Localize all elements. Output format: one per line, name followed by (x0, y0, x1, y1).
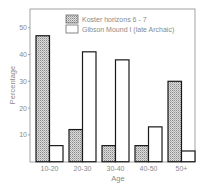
bar-gibson-20-30 (83, 52, 97, 162)
x-tick-label: 10-20 (41, 165, 59, 172)
y-tick-label: 10 (19, 131, 27, 138)
legend-label: Gibson Mound I (late Archaic) (82, 26, 174, 34)
x-tick-label: 30-40 (107, 165, 125, 172)
y-axis: 1020304050 (19, 24, 30, 138)
bar-koster-50+ (168, 81, 182, 161)
legend-swatch-koster (66, 15, 78, 23)
bar-gibson-40-50 (149, 127, 163, 162)
y-tick-label: 50 (19, 24, 27, 31)
y-tick-label: 20 (19, 105, 27, 112)
bar-koster-30-40 (102, 146, 116, 162)
x-tick-label: 40-50 (140, 165, 158, 172)
y-axis-title: Percentage (8, 66, 17, 104)
legend-swatch-gibson (66, 25, 78, 33)
bar-gibson-10-20 (50, 146, 64, 162)
bar-chart: 1020304050 10-2020-3030-4040-5050+ Koste… (0, 0, 206, 188)
y-tick-label: 40 (19, 51, 27, 58)
bar-gibson-30-40 (116, 60, 130, 162)
bar-koster-20-30 (69, 130, 83, 162)
x-axis: 10-2020-3030-4040-5050+ (41, 165, 188, 172)
bars (36, 36, 195, 162)
bar-koster-40-50 (135, 146, 149, 162)
bar-gibson-50+ (182, 151, 196, 162)
legend-label: Koster horizons 6 - 7 (82, 16, 147, 23)
y-tick-label: 30 (19, 78, 27, 85)
x-axis-title: Age (111, 174, 124, 183)
x-tick-label: 20-30 (74, 165, 92, 172)
bar-koster-10-20 (36, 36, 50, 162)
x-tick-label: 50+ (176, 165, 188, 172)
legend: Koster horizons 6 - 7Gibson Mound I (lat… (66, 15, 174, 34)
